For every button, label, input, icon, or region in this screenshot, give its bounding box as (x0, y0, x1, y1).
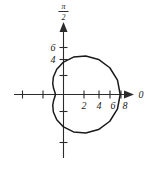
vertical-axis-label-numerator: π (61, 2, 66, 11)
horizontal-axis-arrow-icon (124, 91, 134, 99)
y-tick-label-6: 6 (51, 42, 56, 53)
x-tick-label-8: 8 (123, 100, 128, 111)
horizontal-axis-group (14, 91, 134, 99)
polar-plot-canvas: 2 4 6 8 6 4 0 π 2 (0, 0, 160, 170)
x-tick-label-2: 2 (82, 100, 87, 111)
vertical-axis-arrow-icon (60, 22, 68, 32)
polar-plot-figure: 2 4 6 8 6 4 0 π 2 (0, 0, 160, 170)
vertical-axis-label-denominator: 2 (62, 13, 66, 22)
horizontal-axis-end-label: 0 (139, 89, 144, 100)
x-tick-label-4: 4 (97, 100, 102, 111)
y-tick-label-4: 4 (51, 54, 56, 65)
vertical-axis-end-label-group: π 2 (59, 2, 69, 22)
vertical-axis-group (60, 22, 68, 158)
x-tick-label-6: 6 (111, 100, 116, 111)
